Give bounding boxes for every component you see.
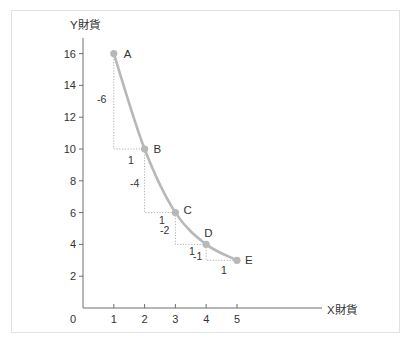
delta-x-label: 1 [221,264,227,276]
point-label-a: A [124,48,132,60]
point-d [203,241,210,248]
y-tick-label: 8 [70,175,76,187]
x-tick-label: 1 [111,313,117,325]
x-tick-label: 2 [142,313,148,325]
y-tick-label: 4 [70,238,76,250]
point-a [110,50,117,57]
y-tick-label: 6 [70,207,76,219]
point-label-b: B [154,143,162,155]
y-tick-label: 12 [64,111,76,123]
x-axis-title: X財貨 [327,303,357,316]
delta-y-label: -4 [130,177,139,189]
y-axis-title: Y財貨 [70,18,100,31]
delta-y-label: -1 [193,250,202,262]
point-b [141,145,148,152]
point-e [233,257,240,264]
y-tick-label: 14 [64,79,76,91]
y-tick-label: 2 [70,270,76,282]
x-tick-label: 3 [172,313,178,325]
indifference-curve-chart: 246810121416012345Y財貨X財貨ABCDE1-61-41-21-… [0,0,408,345]
y-tick-label: 10 [64,143,76,155]
delta-x-label: 1 [128,154,134,166]
delta-y-label: -2 [160,224,169,236]
point-label-e: E [245,254,253,266]
point-c [172,209,179,216]
x-tick-label: 0 [70,313,76,325]
point-label-c: C [183,204,191,216]
point-label-d: D [204,227,212,239]
x-tick-label: 4 [203,313,209,325]
x-tick-label: 5 [234,313,240,325]
delta-y-label: -6 [97,93,106,105]
y-tick-label: 16 [64,48,76,60]
